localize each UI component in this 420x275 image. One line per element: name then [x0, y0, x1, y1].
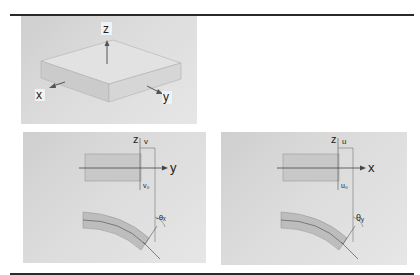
bending-yz-panel: z v y v₀ -θₓ [23, 132, 206, 263]
z-axis-label: z [133, 133, 139, 145]
v0-label: v₀ [143, 182, 150, 189]
bending-xz-diagram: z u x u₀ θᵧ [221, 132, 407, 265]
x-axis-label: x [36, 88, 42, 102]
bending-yz-diagram: z v y v₀ -θₓ [23, 132, 206, 263]
y-axis-label: y [163, 90, 169, 104]
x-axis-label: x [368, 160, 375, 175]
bending-xz-panel: z u x u₀ θᵧ [221, 132, 407, 265]
z-axis-label: z [331, 133, 337, 145]
plate-diagram: z x y [21, 16, 197, 124]
plate-panel: z x y [21, 16, 197, 124]
theta-y-label: θᵧ [356, 213, 364, 223]
z-axis-label: z [103, 22, 109, 36]
y-axis-label: y [170, 160, 177, 175]
u-label: u [342, 137, 346, 146]
theta-x-label: -θₓ [156, 213, 166, 222]
u0-label: u₀ [341, 182, 348, 189]
v-label: v [144, 137, 148, 146]
